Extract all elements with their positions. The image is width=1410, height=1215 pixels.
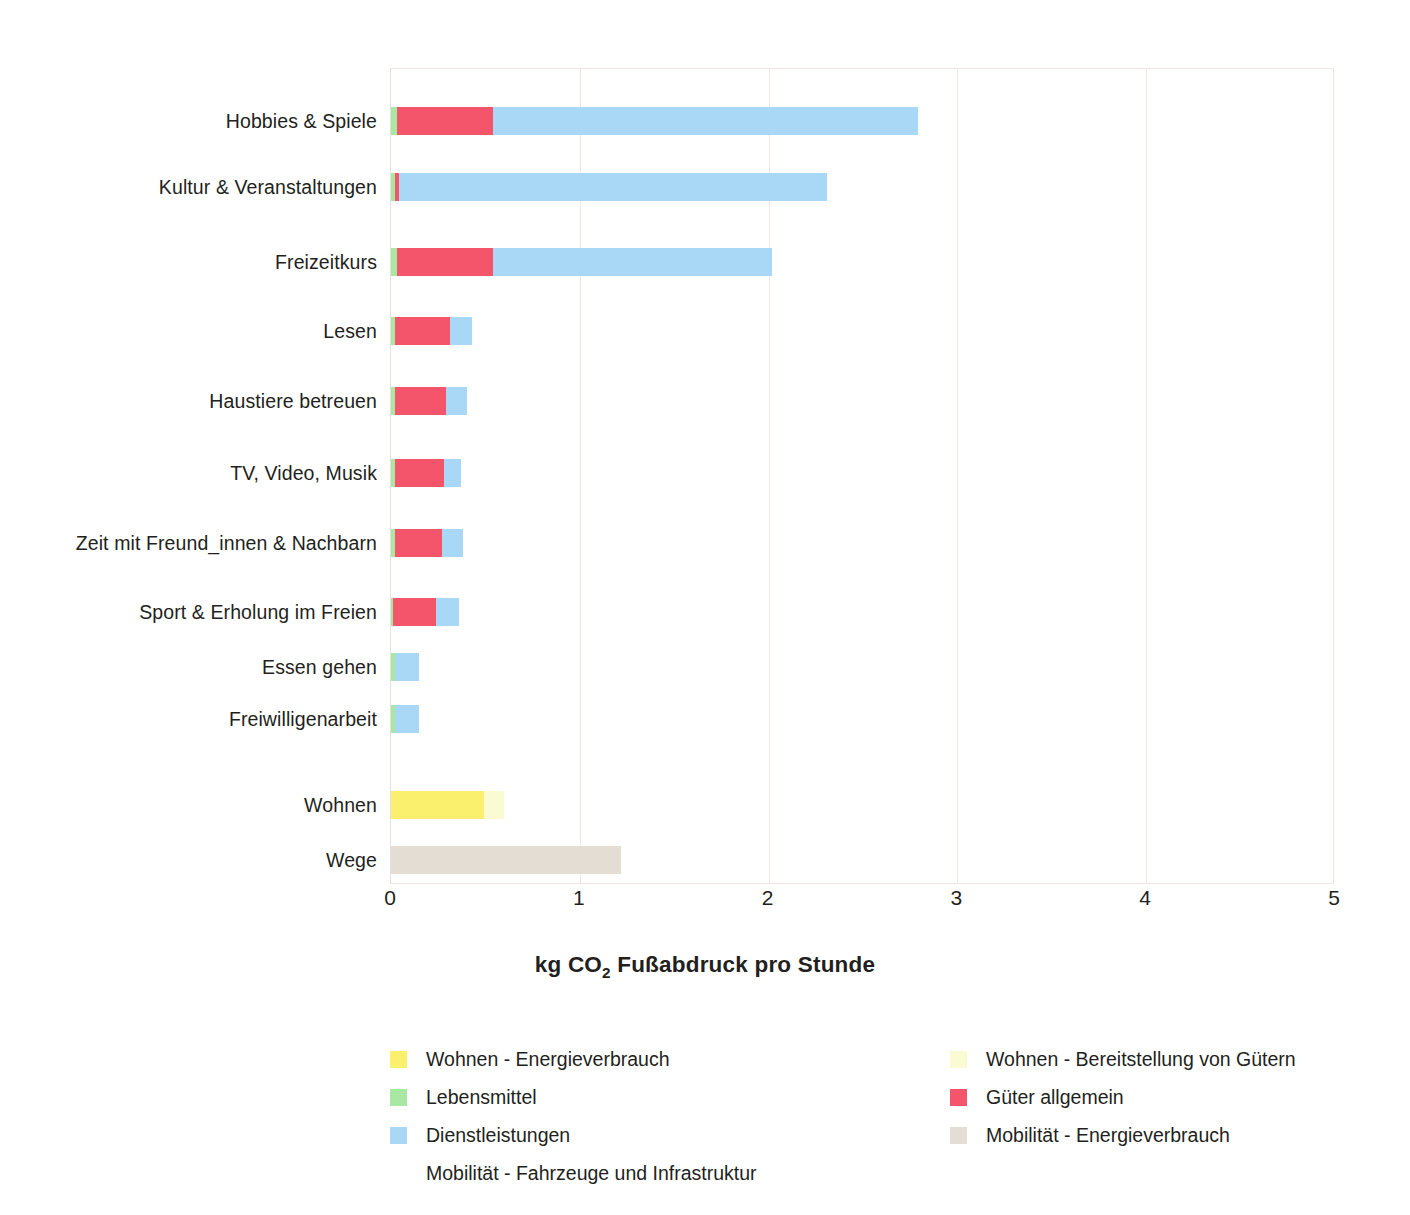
category-label: Zeit mit Freund_innen & Nachbarn [76,529,377,557]
x-tick-4: 4 [1139,886,1151,910]
stacked-bar[interactable] [391,387,467,415]
stacked-bar[interactable] [391,529,463,557]
bar-segment[interactable] [446,387,467,415]
category-label: TV, Video, Musik [230,459,377,487]
legend-swatch-icon [390,1051,407,1068]
category-label: Wege [326,846,377,874]
legend-swatch-icon [390,1165,407,1182]
x-axis-title-suffix: Fußabdruck pro Stunde [611,952,875,977]
category-label: Freiwilligenarbeit [229,705,377,733]
x-axis-title-prefix: kg CO [535,952,602,977]
bar-segment[interactable] [444,459,461,487]
bar-row: Freizeitkurs [391,248,1333,276]
legend-item[interactable]: Wohnen - Bereitstellung von Gütern [950,1040,1296,1078]
stacked-bar[interactable] [391,598,459,626]
legend-item[interactable]: Dienstleistungen [390,1116,757,1154]
x-tick-3: 3 [951,886,963,910]
bar-row: Freiwilligenarbeit [391,705,1333,733]
legend-swatch-icon [390,1089,407,1106]
category-label: Sport & Erholung im Freien [139,598,377,626]
stacked-bar[interactable] [391,846,621,874]
category-label: Freizeitkurs [275,248,377,276]
stacked-bar[interactable] [391,791,504,819]
bar-segment[interactable] [436,598,459,626]
bar-segment[interactable] [395,653,420,681]
plot-area: Hobbies & SpieleKultur & Veranstaltungen… [390,68,1334,884]
legend-label: Mobilität - Fahrzeuge und Infrastruktur [426,1162,757,1185]
bar-segment[interactable] [397,107,493,135]
bar-row: Kultur & Veranstaltungen [391,173,1333,201]
x-tick-1: 1 [573,886,585,910]
bar-segment[interactable] [395,529,442,557]
x-tick-0: 0 [384,886,396,910]
legend-swatch-icon [950,1089,967,1106]
legend-item[interactable]: Mobilität - Fahrzeuge und Infrastruktur [390,1154,757,1192]
bar-row: Haustiere betreuen [391,387,1333,415]
legend-item[interactable]: Wohnen - Energieverbrauch [390,1040,757,1078]
category-label: Lesen [323,317,377,345]
bar-segment[interactable] [395,387,446,415]
bar-segment[interactable] [395,459,444,487]
stacked-bar[interactable] [391,459,461,487]
legend-column-right: Wohnen - Bereitstellung von GüternGüter … [950,1040,1296,1154]
bar-segment[interactable] [450,317,473,345]
bar-row: Lesen [391,317,1333,345]
x-tick-5: 5 [1328,886,1340,910]
category-label: Kultur & Veranstaltungen [159,173,377,201]
legend-label: Wohnen - Energieverbrauch [426,1048,670,1071]
bar-segment[interactable] [393,598,436,626]
bar-row: Wohnen [391,791,1333,819]
stacked-bar[interactable] [391,317,472,345]
legend-swatch-icon [950,1051,967,1068]
legend-item[interactable]: Lebensmittel [390,1078,757,1116]
bar-row: Essen gehen [391,653,1333,681]
category-label: Hobbies & Spiele [226,107,377,135]
bar-row: Sport & Erholung im Freien [391,598,1333,626]
legend-label: Wohnen - Bereitstellung von Gütern [986,1048,1296,1071]
bar-segment[interactable] [397,248,493,276]
stacked-bar[interactable] [391,107,918,135]
legend-item[interactable]: Mobilität - Energieverbrauch [950,1116,1296,1154]
stacked-bar[interactable] [391,173,827,201]
bar-row: Wege [391,846,1333,874]
stacked-bar[interactable] [391,653,419,681]
bar-row: TV, Video, Musik [391,459,1333,487]
legend-label: Güter allgemein [986,1086,1124,1109]
bar-segment[interactable] [493,107,918,135]
category-label: Haustiere betreuen [209,387,377,415]
bar-segment[interactable] [395,705,420,733]
bar-segment[interactable] [442,529,463,557]
legend-swatch-icon [950,1127,967,1144]
bar-segment[interactable] [484,791,505,819]
category-label: Essen gehen [262,653,377,681]
bar-segment[interactable] [399,173,828,201]
stacked-bar[interactable] [391,705,419,733]
legend-label: Mobilität - Energieverbrauch [986,1124,1230,1147]
x-axis-tick-labels: 012345 [390,886,1334,926]
bar-row: Zeit mit Freund_innen & Nachbarn [391,529,1333,557]
legend-label: Dienstleistungen [426,1124,570,1147]
legend-label: Lebensmittel [426,1086,537,1109]
x-axis-title-subscript: 2 [602,964,611,981]
bar-segment[interactable] [493,248,772,276]
legend-item[interactable]: Güter allgemein [950,1078,1296,1116]
category-label: Wohnen [304,791,377,819]
bar-segment[interactable] [395,317,450,345]
bar-segment[interactable] [391,791,484,819]
co2-footprint-bar-chart: Hobbies & SpieleKultur & Veranstaltungen… [0,0,1410,1215]
x-axis-title: kg CO2 Fußabdruck pro Stunde [0,952,1410,982]
bar-row: Hobbies & Spiele [391,107,1333,135]
bar-segment[interactable] [391,846,621,874]
stacked-bar[interactable] [391,248,772,276]
legend-column-left: Wohnen - EnergieverbrauchLebensmittelDie… [390,1040,757,1192]
legend-swatch-icon [390,1127,407,1144]
x-tick-2: 2 [762,886,774,910]
